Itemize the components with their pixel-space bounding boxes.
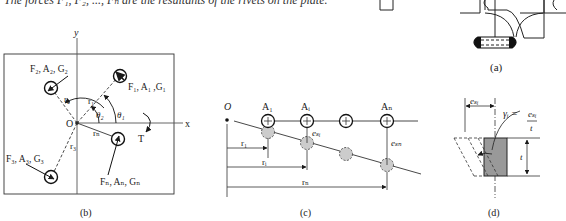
figure-canvas: (a) y — [0, 0, 566, 221]
rivet-n-icon — [108, 133, 125, 176]
panel-c-label: (c) — [300, 207, 311, 219]
c-esn-label: eₛₙ — [391, 138, 402, 148]
c-origin-label: O — [224, 101, 231, 112]
b-r1-label: r₁ — [88, 96, 94, 106]
b-theta1-label: θ₁ — [117, 110, 125, 120]
panel-b-rivet-group — [4, 38, 183, 194]
rivet-mid-icon — [340, 115, 353, 128]
b-r2-label: r₂ — [64, 94, 70, 104]
panel-d-label: (d) — [488, 207, 500, 219]
d-esi-label: eₛᵢ — [470, 96, 479, 106]
panel-b-label: (b) — [80, 207, 92, 219]
b-axis-y-label: y — [73, 27, 79, 38]
rivet-1-icon — [114, 70, 127, 83]
rivet-3-icon — [26, 164, 58, 184]
panel-a-label: (a) — [490, 61, 503, 74]
c-Ai-label: Aᵢ — [301, 101, 310, 112]
rivet-2-icon — [45, 76, 69, 95]
b-rivet1-label: F₁, A₁ ,G₁ — [128, 82, 166, 92]
d-gamma-lhs: γᵢ = — [503, 108, 518, 119]
rivet-An-icon — [381, 115, 394, 128]
b-torque-label: T — [138, 133, 144, 144]
b-theta2-label: θ₂ — [96, 110, 104, 120]
c-r1-label: r₁ — [241, 138, 247, 148]
c-An-label: Aₙ — [381, 101, 393, 112]
d-gamma-denominator: t — [530, 123, 533, 133]
b-rivetn-label: Fₙ, Aₙ, Gₙ — [100, 177, 140, 187]
c-ri-label: rᵢ — [262, 157, 267, 167]
c-rn-label: rₙ — [302, 177, 309, 187]
rivet-Ai-icon — [301, 115, 314, 128]
d-gamma-numerator: eₛᵢ — [528, 109, 537, 119]
b-origin-label: O — [66, 118, 73, 129]
b-axis-x-label: x — [185, 118, 190, 129]
b-rivet2-label: F₂, A₂, G₂ — [30, 64, 68, 74]
c-esi-label: eₛᵢ — [312, 128, 321, 138]
b-rn-label: rₙ — [93, 128, 100, 138]
c-A1-label: A₁ — [262, 101, 273, 112]
rivet-A1-icon — [262, 115, 275, 128]
panel-a-joint-drawing — [380, 0, 566, 48]
d-thickness-label: t — [520, 152, 523, 162]
b-rivet3-label: F₃, A₃, G₃ — [6, 154, 44, 164]
panel-c-displacement — [225, 115, 421, 198]
b-r3-label: r₃ — [70, 141, 76, 151]
